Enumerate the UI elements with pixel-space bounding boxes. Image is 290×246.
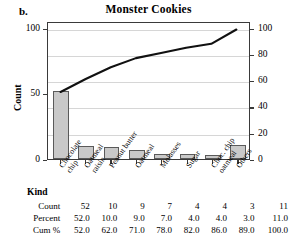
table-cell: 9 xyxy=(119,200,146,212)
y-tick-label-right: 40 xyxy=(258,101,284,111)
table-row: Percent52.010.09.07.04.04.03.011.0 xyxy=(0,212,290,224)
cumulative-line-path xyxy=(61,30,237,92)
panel-label: b. xyxy=(19,5,28,17)
table-cell: 71.0 xyxy=(119,224,146,236)
y-tick-mark-right xyxy=(250,29,254,30)
table-row-label: Percent xyxy=(0,212,64,224)
y-tick-label-left: 100 xyxy=(14,23,40,33)
y-tick-label-right: 60 xyxy=(258,75,284,85)
table-cell: 3.0 xyxy=(229,212,256,224)
y-tick-label-left: 0 xyxy=(14,154,40,164)
table-cell: 10.0 xyxy=(92,212,119,224)
y-tick-label-right: 20 xyxy=(258,128,284,138)
table-cell: 7 xyxy=(147,200,174,212)
pareto-chart-figure: b. Monster Cookies Count 050100 02040608… xyxy=(0,0,290,246)
table-cell: 78.0 xyxy=(147,224,174,236)
table-cell: 4.0 xyxy=(174,212,201,224)
table-cell: 4 xyxy=(174,200,201,212)
table-row-label: Count xyxy=(0,200,64,212)
y-tick-mark-left xyxy=(43,160,47,161)
table-cell: 82.0 xyxy=(174,224,201,236)
table-row: Cum %52.062.071.078.082.086.089.0100.0 xyxy=(0,224,290,236)
y-tick-mark-right xyxy=(250,107,254,108)
chart-title: Monster Cookies xyxy=(47,3,250,15)
table-cell: 52 xyxy=(64,200,91,212)
table-cell: 4.0 xyxy=(202,212,229,224)
y-tick-mark-right xyxy=(250,160,254,161)
table-cell: 9.0 xyxy=(119,212,146,224)
y-tick-label-left: 50 xyxy=(14,88,40,98)
table-cell: 4 xyxy=(202,200,229,212)
table-cell: 10 xyxy=(92,200,119,212)
y-tick-label-right: 100 xyxy=(258,23,284,33)
table-cell: 7.0 xyxy=(147,212,174,224)
y-tick-mark-right xyxy=(250,55,254,56)
table-cell: 100.0 xyxy=(257,224,290,236)
table-row: Count52109744311 xyxy=(0,200,290,212)
table-cell: 52.0 xyxy=(64,212,91,224)
table-cell: 52.0 xyxy=(64,224,91,236)
y-tick-label-right: 0 xyxy=(258,154,284,164)
y-tick-mark-left xyxy=(43,29,47,30)
y-tick-label-right: 80 xyxy=(258,49,284,59)
table-cell: 62.0 xyxy=(92,224,119,236)
y-tick-mark-right xyxy=(250,81,254,82)
table-cell: 86.0 xyxy=(202,224,229,236)
y-tick-mark-right xyxy=(250,134,254,135)
data-table: Count52109744311Percent52.010.09.07.04.0… xyxy=(0,200,290,236)
table-cell: 11.0 xyxy=(257,212,290,224)
table-row-label: Cum % xyxy=(0,224,64,236)
y-tick-mark-left xyxy=(43,94,47,95)
table-cell: 89.0 xyxy=(229,224,256,236)
x-axis-title: Kind xyxy=(27,187,48,197)
table-cell: 11 xyxy=(257,200,290,212)
table-cell: 3 xyxy=(229,200,256,212)
